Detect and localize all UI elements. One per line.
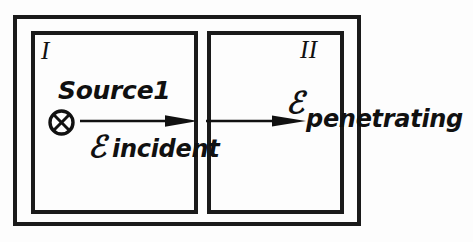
penetrating-field-label: ℰpenetrating	[286, 88, 461, 118]
figure-canvas: I II Source1 ℰincident ℰpenetrating	[0, 0, 473, 242]
incident-field-subscript: incident	[112, 135, 219, 163]
penetrating-field-subscript: penetrating	[306, 105, 463, 133]
source-label: Source1	[58, 76, 170, 105]
circled-x-icon	[47, 108, 76, 137]
penetrating-field-symbol: ℰ	[286, 85, 304, 120]
incident-field-symbol: ℰ	[88, 129, 106, 164]
incident-arrow-right-icon	[80, 112, 198, 130]
incident-field-label: ℰincident	[88, 132, 219, 162]
region-one-label: I	[41, 38, 50, 63]
region-two-label: II	[300, 37, 318, 62]
